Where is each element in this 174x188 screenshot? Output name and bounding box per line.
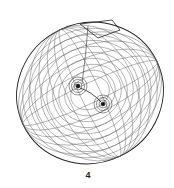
figure-label: 4 [82, 170, 94, 180]
wireframe-surface [0, 0, 174, 188]
singular-point-upper [69, 77, 87, 95]
